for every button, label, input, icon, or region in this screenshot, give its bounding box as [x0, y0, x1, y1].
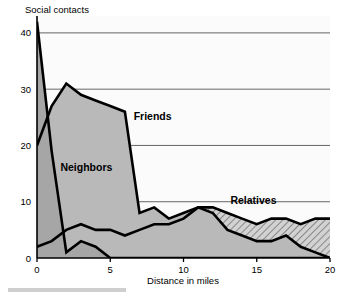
- social-contacts-area-chart: 010203040 05101520 Social contacts Dista…: [0, 0, 350, 297]
- chart-container: 010203040 05101520 Social contacts Dista…: [0, 0, 350, 297]
- series-label-neighbors: Neighbors: [60, 161, 112, 173]
- y-tick-label-30: 30: [20, 84, 31, 95]
- footer-rule: [8, 288, 126, 292]
- y-tick-label-40: 40: [20, 27, 31, 38]
- y-tick-label-10: 10: [20, 196, 31, 207]
- x-axis-title: Distance in miles: [147, 275, 219, 286]
- series-label-relatives: Relatives: [230, 194, 276, 206]
- x-axis-ticks: 05101520: [34, 258, 335, 275]
- y-tick-label-0: 0: [26, 253, 31, 264]
- x-tick-label-10: 10: [178, 264, 189, 275]
- x-tick-label-0: 0: [34, 264, 39, 275]
- x-tick-label-15: 15: [251, 264, 262, 275]
- x-tick-label-20: 20: [325, 264, 336, 275]
- y-axis-ticks: 010203040: [20, 27, 31, 263]
- y-axis-title: Social contacts: [25, 4, 89, 15]
- y-tick-label-20: 20: [20, 140, 31, 151]
- series-label-friends: Friends: [134, 110, 172, 122]
- x-tick-label-5: 5: [108, 264, 113, 275]
